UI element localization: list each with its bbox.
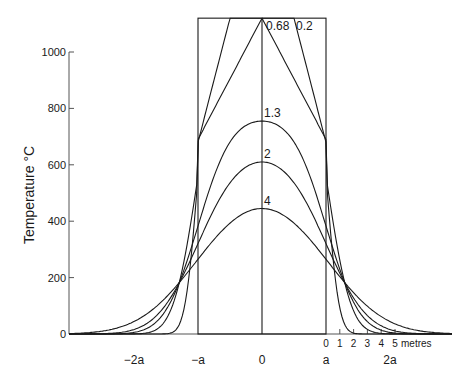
curve-t-2 bbox=[69, 162, 452, 334]
curve-label-0_68: 0.68 bbox=[266, 19, 290, 33]
labels: 020040060080010000.680.21.324−2a−a0a2a01… bbox=[42, 19, 432, 367]
curve-t-1_3 bbox=[69, 121, 452, 334]
curve-label-2: 2 bbox=[264, 147, 271, 161]
curves bbox=[69, 18, 452, 334]
curve-label-0_2: 0.2 bbox=[296, 19, 313, 33]
y-tick-label: 400 bbox=[48, 215, 66, 227]
y-tick-label: 600 bbox=[48, 159, 66, 171]
scale-label: 1 bbox=[337, 338, 343, 349]
curve-label-1_3: 1.3 bbox=[264, 106, 281, 120]
scale-label: 4 bbox=[378, 338, 384, 349]
temperature-chart: 020040060080010000.680.21.324−2a−a0a2a01… bbox=[0, 0, 466, 379]
curve-t-0_2 bbox=[69, 18, 452, 334]
scale-label: 5 bbox=[392, 338, 398, 349]
x-tick-label: a bbox=[323, 353, 330, 367]
y-tick-label: 200 bbox=[48, 272, 66, 284]
scale-label: 2 bbox=[351, 338, 357, 349]
scale-label: 0 bbox=[323, 338, 329, 349]
x-tick-label: −2a bbox=[124, 353, 145, 367]
curve-t-0_68 bbox=[69, 18, 452, 334]
curve-label-4: 4 bbox=[264, 194, 271, 208]
axes bbox=[69, 18, 452, 334]
curve-t-4 bbox=[69, 209, 452, 334]
y-tick-label: 1000 bbox=[42, 46, 66, 58]
y-tick-label: 800 bbox=[48, 102, 66, 114]
x-tick-label: 0 bbox=[259, 353, 266, 367]
scale-unit: metres bbox=[401, 338, 432, 349]
x-tick-label: 2a bbox=[383, 353, 397, 367]
x-tick-label: −a bbox=[191, 353, 205, 367]
scale-label: 3 bbox=[365, 338, 371, 349]
y-tick-label: 0 bbox=[60, 328, 66, 340]
y-axis-label: Temperature °C bbox=[21, 146, 37, 244]
